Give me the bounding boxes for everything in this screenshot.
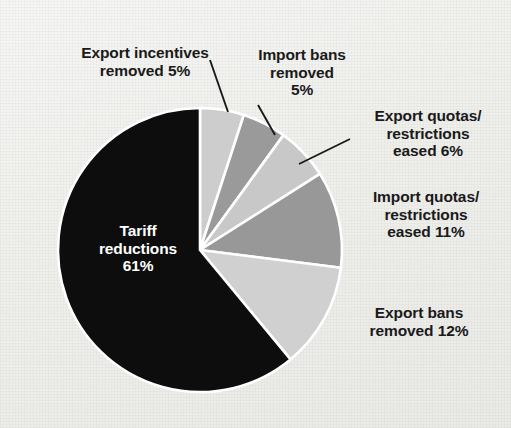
pie-label-export-bans-removed: Export bans removed 12% bbox=[334, 304, 504, 339]
pie-label-export-incentives-removed: Export incentives removed 5% bbox=[64, 44, 226, 79]
leader-line-export-quotas-restrictions-eased bbox=[299, 139, 350, 164]
pie-label-import-quotas-restrictions-eased: Import quotas/ restrictions eased 11% bbox=[344, 188, 508, 241]
pie-label-import-bans-removed: Import bans removed 5% bbox=[243, 46, 361, 99]
pie-label-export-quotas-restrictions-eased: Export quotas/ restrictions eased 6% bbox=[352, 107, 504, 160]
pie-chart-figure: Export incentives removed 5% Import bans… bbox=[0, 0, 511, 428]
pie-label-tariff-reductions: Tariff reductions 61% bbox=[74, 222, 202, 275]
